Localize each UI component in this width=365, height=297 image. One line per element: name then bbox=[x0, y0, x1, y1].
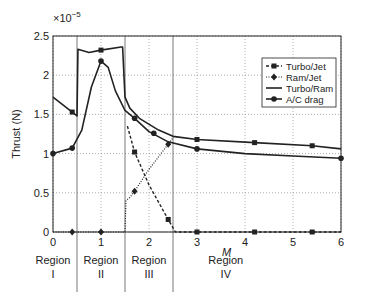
svg-text:II: II bbox=[98, 268, 104, 280]
legend-entry: Turbo/Ram bbox=[286, 83, 333, 94]
svg-text:IV: IV bbox=[221, 268, 232, 280]
x-tick-label: 5 bbox=[290, 236, 296, 248]
legend: Turbo/JetRam/JetTurbo/RamA/C drag bbox=[262, 58, 336, 107]
y-tick-label: 2.5 bbox=[34, 30, 49, 42]
legend-entry: Ram/Jet bbox=[286, 72, 322, 83]
x-tick-label: 0 bbox=[50, 236, 56, 248]
y-tick-label: 0 bbox=[43, 226, 49, 238]
series-turbo-jet bbox=[127, 126, 341, 234]
x-tick-label: 2 bbox=[146, 236, 152, 248]
y-tick-label: 2 bbox=[43, 69, 49, 81]
legend-entry: Turbo/Jet bbox=[286, 61, 326, 72]
svg-text:III: III bbox=[144, 268, 153, 280]
series-ram-jet bbox=[53, 138, 173, 236]
x-tick-label: 3 bbox=[194, 236, 200, 248]
x-tick-label: 6 bbox=[338, 236, 344, 248]
svg-text:Region: Region bbox=[36, 254, 71, 266]
svg-text:Region: Region bbox=[132, 254, 167, 266]
y-exponent: ×10−5 bbox=[53, 10, 81, 24]
x-tick-label: 4 bbox=[242, 236, 248, 248]
legend-entry: A/C drag bbox=[286, 94, 324, 105]
svg-text:Region: Region bbox=[208, 254, 243, 266]
y-tick-label: 1.5 bbox=[34, 108, 49, 120]
thrust-chart: 012345600.511.522.5 ×10−5 Thrust (N) M R… bbox=[0, 0, 365, 297]
svg-text:I: I bbox=[51, 268, 54, 280]
svg-text:Region: Region bbox=[84, 254, 119, 266]
y-tick-label: 0.5 bbox=[34, 187, 49, 199]
x-tick-label: 1 bbox=[98, 236, 104, 248]
y-tick-label: 1 bbox=[43, 148, 49, 160]
region-labels: RegionIRegionIIRegionIIIRegionIV bbox=[36, 254, 244, 280]
y-axis-label: Thrust (N) bbox=[10, 109, 22, 159]
